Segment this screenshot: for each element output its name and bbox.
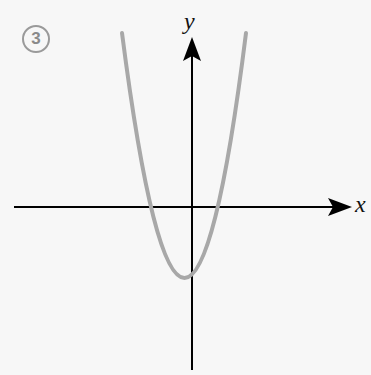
parabola-curve	[122, 33, 246, 278]
graph-canvas	[0, 0, 371, 375]
y-axis-label: y	[184, 8, 195, 35]
x-axis-label: x	[355, 191, 366, 218]
